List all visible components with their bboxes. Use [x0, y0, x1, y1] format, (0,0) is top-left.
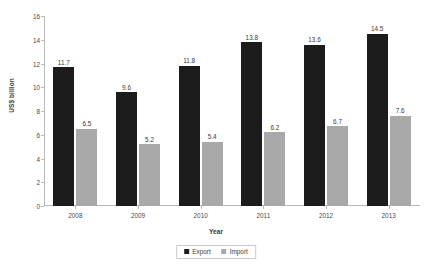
y-tick-mark [41, 135, 44, 136]
x-tick-mark [138, 206, 139, 209]
y-tick-mark [41, 159, 44, 160]
bar-chart: US$ billion 0246810121416 11.76.59.65.21… [0, 0, 432, 278]
legend-swatch-icon [184, 249, 189, 254]
legend-item-export[interactable]: Export [184, 248, 210, 255]
bar-export-2011 [241, 42, 262, 206]
y-tick-mark [41, 111, 44, 112]
y-axis-title: US$ billion [8, 61, 15, 131]
bar-value-label: 5.2 [145, 136, 154, 143]
x-tick-label: 2008 [68, 212, 82, 219]
bar-export-2010 [179, 66, 200, 206]
y-tick-mark [41, 40, 44, 41]
x-tick-label: 2012 [319, 212, 333, 219]
y-tick-label: 4 [18, 155, 40, 162]
bar-value-label: 13.6 [308, 36, 320, 43]
bar-import-2011 [264, 132, 285, 206]
chart-legend: ExportImport [176, 245, 256, 259]
x-tick-label: 2010 [194, 212, 208, 219]
bar-import-2008 [76, 129, 97, 206]
bar-export-2008 [53, 67, 74, 206]
x-tick-mark [75, 206, 76, 209]
bar-value-label: 14.5 [371, 25, 383, 32]
x-tick-label: 2009 [131, 212, 145, 219]
y-tick-label: 14 [18, 36, 40, 43]
legend-swatch-icon [222, 249, 227, 254]
x-tick-mark [201, 206, 202, 209]
y-tick-label: 12 [18, 60, 40, 67]
bar-value-label: 6.5 [82, 120, 91, 127]
x-tick-mark [326, 206, 327, 209]
y-tick-label: 0 [18, 203, 40, 210]
x-tick-label: 2013 [382, 212, 396, 219]
bar-value-label: 11.7 [58, 59, 70, 66]
y-tick-mark [41, 64, 44, 65]
legend-item-import[interactable]: Import [222, 248, 248, 255]
x-tick-mark [263, 206, 264, 209]
bar-import-2013 [390, 116, 411, 206]
bar-export-2013 [367, 34, 388, 206]
bar-value-label: 5.4 [208, 133, 217, 140]
bar-value-label: 9.6 [122, 84, 131, 91]
bar-import-2009 [139, 144, 160, 206]
x-axis-line [44, 205, 420, 206]
y-tick-label: 2 [18, 179, 40, 186]
x-axis-title: Year [0, 228, 432, 235]
bar-value-label: 6.7 [333, 118, 342, 125]
y-axis-line [44, 16, 45, 206]
y-tick-mark [41, 16, 44, 17]
legend-label: Export [192, 248, 210, 255]
x-tick-mark [389, 206, 390, 209]
x-tick-label: 2011 [256, 212, 270, 219]
bar-value-label: 7.6 [396, 107, 405, 114]
bar-export-2012 [304, 45, 325, 207]
bar-value-label: 11.8 [183, 57, 195, 64]
y-tick-label: 6 [18, 131, 40, 138]
y-tick-mark [41, 182, 44, 183]
bar-import-2012 [327, 126, 348, 206]
plot-area: 0246810121416 11.76.59.65.211.85.413.86.… [44, 16, 420, 206]
bar-value-label: 6.2 [270, 124, 279, 131]
y-tick-label: 8 [18, 108, 40, 115]
y-tick-mark [41, 87, 44, 88]
y-tick-label: 16 [18, 13, 40, 20]
bar-import-2010 [202, 142, 223, 206]
y-tick-mark [41, 206, 44, 207]
y-tick-label: 10 [18, 84, 40, 91]
bar-value-label: 13.8 [246, 34, 258, 41]
bar-export-2009 [116, 92, 137, 206]
legend-label: Import [230, 248, 248, 255]
